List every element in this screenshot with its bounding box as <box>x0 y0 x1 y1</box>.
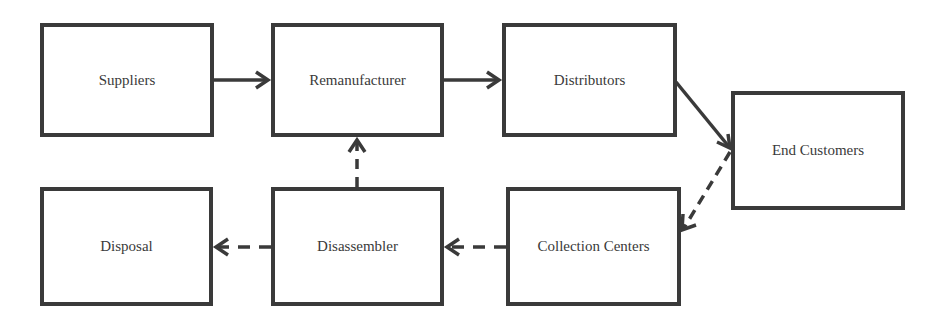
node-disassembler: Disassembler <box>271 187 444 306</box>
node-label: Disassembler <box>317 238 398 255</box>
diagram-canvas: Suppliers Remanufacturer Distributors En… <box>0 0 945 324</box>
edge-disassembler-remanufacturer <box>349 140 365 187</box>
node-label: Distributors <box>554 72 626 89</box>
node-end-customers: End Customers <box>731 91 905 210</box>
node-distributors: Distributors <box>502 23 677 137</box>
node-label: Suppliers <box>99 72 156 89</box>
node-label: Remanufacturer <box>309 72 406 89</box>
node-suppliers: Suppliers <box>40 23 214 137</box>
node-label: Collection Centers <box>537 238 649 255</box>
edge-remanufacturer-distributors <box>443 72 499 88</box>
edge-suppliers-remanufacturer <box>213 72 268 88</box>
node-disposal: Disposal <box>40 187 213 306</box>
edge-end-customers-collection-centers <box>682 152 730 230</box>
edge-disassembler-disposal <box>216 239 271 255</box>
edge-distributors-end-customers <box>676 82 730 148</box>
edge-collection-centers-disassembler <box>447 239 506 255</box>
node-remanufacturer: Remanufacturer <box>271 23 444 137</box>
node-label: End Customers <box>772 142 864 159</box>
node-collection-centers: Collection Centers <box>506 187 681 306</box>
node-label: Disposal <box>100 238 153 255</box>
